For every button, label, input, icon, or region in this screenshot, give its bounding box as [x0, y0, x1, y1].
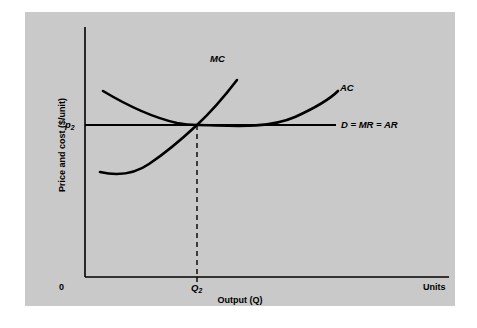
y-tick-label-p2: p2 — [65, 120, 75, 130]
y-axis-title: Price and cost ($/unit) — [57, 75, 67, 215]
ac-curve-label: AC — [340, 83, 354, 93]
x-tick-label-q2: Q2 — [191, 283, 202, 293]
mc-curve-label: MC — [210, 54, 225, 64]
mc-curve — [100, 80, 237, 174]
economics-figure: Price and cost ($/unit) p2 0 Q2 Units Ou… — [0, 0, 477, 328]
x-axis-end-label: Units — [423, 283, 446, 292]
chart-svg — [25, 12, 455, 306]
x-axis-title: Output (Q) — [25, 295, 455, 305]
ac-curve — [103, 91, 338, 126]
demand-line-label: D = MR = AR — [341, 120, 398, 130]
origin-label: 0 — [59, 283, 64, 292]
chart-plot-panel: Price and cost ($/unit) p2 0 Q2 Units Ou… — [25, 12, 455, 306]
